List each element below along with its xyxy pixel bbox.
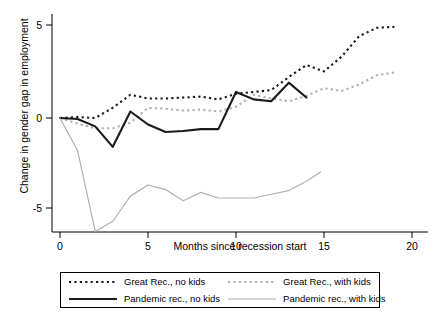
series-line-great-rec-no-kids bbox=[60, 27, 394, 118]
legend-item-pandemic-rec-no-kids: Pandemic rec., no kids bbox=[61, 294, 220, 304]
x-tick-label-20: 20 bbox=[400, 240, 424, 252]
plot-area: Change in gender gap in employment Month… bbox=[0, 0, 440, 260]
legend-swatch-great-rec-with-kids bbox=[226, 277, 278, 287]
x-tick-label-0: 0 bbox=[48, 240, 72, 252]
y-tick-label-5: 5 bbox=[20, 19, 42, 31]
legend-swatch-pandemic-rec-no-kids bbox=[67, 294, 119, 304]
legend-label-great-rec-no-kids: Great Rec., no kids bbox=[124, 277, 205, 287]
legend-label-great-rec-with-kids: Great Rec., with kids bbox=[283, 277, 371, 287]
y-tick-label-0: 0 bbox=[20, 112, 42, 124]
legend-item-pandemic-rec-with-kids: Pandemic rec., with kids bbox=[220, 294, 385, 304]
series-line-pandemic-rec-no-kids bbox=[60, 83, 306, 147]
x-tick-label-5: 5 bbox=[136, 240, 160, 252]
legend-item-great-rec-no-kids: Great Rec., no kids bbox=[61, 277, 220, 287]
legend-swatch-great-rec-no-kids bbox=[67, 277, 119, 287]
x-tick-label-10: 10 bbox=[224, 240, 248, 252]
chart-canvas bbox=[0, 0, 440, 260]
series-line-pandemic-rec-with-kids bbox=[60, 118, 320, 231]
chart-figure: Change in gender gap in employment Month… bbox=[0, 0, 440, 323]
axis-lines bbox=[46, 14, 428, 238]
series-line-great-rec-with-kids bbox=[60, 72, 394, 128]
legend-item-great-rec-with-kids: Great Rec., with kids bbox=[220, 277, 385, 287]
legend: Great Rec., no kids Great Rec., with kid… bbox=[60, 272, 380, 308]
legend-swatch-pandemic-rec-with-kids bbox=[226, 294, 278, 304]
y-tick-label-minus5: -5 bbox=[20, 202, 42, 214]
data-series-layer bbox=[60, 27, 394, 232]
y-axis-label: Change in gender gap in employment bbox=[18, 6, 30, 206]
legend-label-pandemic-rec-no-kids: Pandemic rec., no kids bbox=[124, 294, 220, 304]
legend-label-pandemic-rec-with-kids: Pandemic rec., with kids bbox=[283, 294, 385, 304]
x-tick-label-15: 15 bbox=[312, 240, 336, 252]
